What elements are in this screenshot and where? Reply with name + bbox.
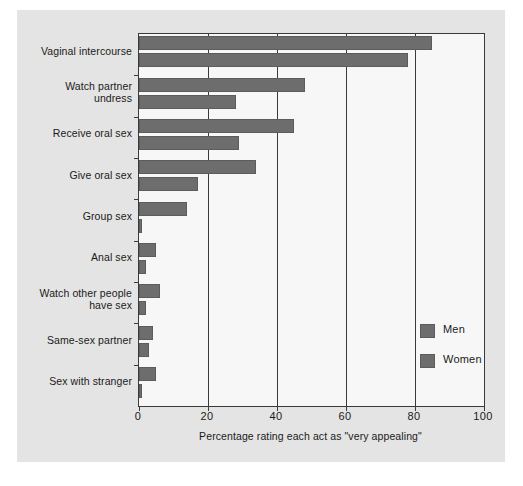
plot-area: MenWomen — [138, 33, 485, 407]
category-label-7: Same-sex partner — [14, 334, 132, 346]
bar-women-5 — [139, 260, 146, 274]
x-axis-title: Percentage rating each act as "very appe… — [138, 430, 483, 442]
y-tick-6 — [134, 282, 139, 283]
category-label-4: Group sex — [14, 210, 132, 222]
gridline-80 — [415, 34, 416, 406]
category-label-5: Anal sex — [14, 251, 132, 263]
figure: Vaginal intercourseWatch partnerundressR… — [0, 0, 523, 486]
y-tick-7 — [134, 323, 139, 324]
category-label-line: Same-sex partner — [14, 334, 132, 346]
bar-women-8 — [139, 384, 142, 398]
bar-men-6 — [139, 284, 160, 298]
legend-label-men: Men — [443, 323, 465, 335]
category-label-0: Vaginal intercourse — [14, 45, 132, 57]
x-tick-label-100: 100 — [463, 410, 503, 422]
category-label-2: Receive oral sex — [14, 127, 132, 139]
category-label-line: Receive oral sex — [14, 127, 132, 139]
bar-women-6 — [139, 301, 146, 315]
category-label-8: Sex with stranger — [14, 375, 132, 387]
category-label-line: Vaginal intercourse — [14, 45, 132, 57]
x-tick-label-40: 40 — [256, 410, 296, 422]
y-tick-4 — [134, 199, 139, 200]
bar-women-1 — [139, 95, 236, 109]
bar-women-3 — [139, 177, 198, 191]
bar-women-7 — [139, 343, 149, 357]
category-label-1: Watch partnerundress — [14, 80, 132, 104]
category-label-line: Give oral sex — [14, 169, 132, 181]
x-tick-label-20: 20 — [187, 410, 227, 422]
legend-swatch-men — [420, 324, 435, 338]
bar-men-3 — [139, 160, 256, 174]
bar-men-5 — [139, 243, 156, 257]
y-tick-1 — [134, 75, 139, 76]
category-label-line: Sex with stranger — [14, 375, 132, 387]
category-label-line: Group sex — [14, 210, 132, 222]
legend-label-women: Women — [443, 353, 482, 365]
x-tick-label-80: 80 — [394, 410, 434, 422]
bar-men-7 — [139, 326, 153, 340]
category-label-line: Anal sex — [14, 251, 132, 263]
bar-women-0 — [139, 53, 408, 67]
bar-men-4 — [139, 202, 187, 216]
bar-men-0 — [139, 36, 432, 50]
y-tick-2 — [134, 117, 139, 118]
x-tick-label-60: 60 — [325, 410, 365, 422]
y-axis-category-labels: Vaginal intercourseWatch partnerundressR… — [12, 33, 132, 405]
category-label-3: Give oral sex — [14, 169, 132, 181]
y-tick-8 — [134, 365, 139, 366]
category-label-line: Watch other people — [14, 287, 132, 299]
category-label-line: undress — [14, 92, 132, 104]
bar-men-8 — [139, 367, 156, 381]
category-label-line: have sex — [14, 299, 132, 311]
legend-swatch-women — [420, 354, 435, 368]
x-tick-label-0: 0 — [118, 410, 158, 422]
bar-women-4 — [139, 219, 142, 233]
y-tick-3 — [134, 158, 139, 159]
bar-women-2 — [139, 136, 239, 150]
legend: MenWomen — [420, 322, 480, 392]
gridline-60 — [346, 34, 347, 406]
y-tick-5 — [134, 241, 139, 242]
bar-men-2 — [139, 119, 294, 133]
category-label-line: Watch partner — [14, 80, 132, 92]
bar-men-1 — [139, 78, 305, 92]
category-label-6: Watch other peoplehave sex — [14, 287, 132, 311]
